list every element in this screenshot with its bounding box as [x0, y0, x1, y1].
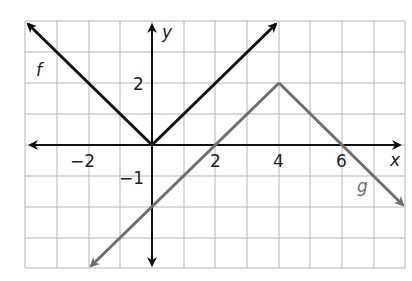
x-tick-2: 2 — [210, 151, 221, 171]
y-tick-2: 2 — [133, 74, 144, 94]
g-label: g — [357, 176, 368, 196]
y-tick-neg1: −1 — [119, 168, 144, 188]
coordinate-plane: y x f g −2 2 4 6 2 −1 — [0, 0, 412, 281]
x-axis-label: x — [389, 150, 401, 170]
x-tick-neg2: −2 — [70, 151, 95, 171]
f-label: f — [36, 60, 45, 80]
y-axis-label: y — [161, 22, 173, 42]
x-tick-6: 6 — [336, 151, 347, 171]
x-tick-4: 4 — [273, 151, 284, 171]
